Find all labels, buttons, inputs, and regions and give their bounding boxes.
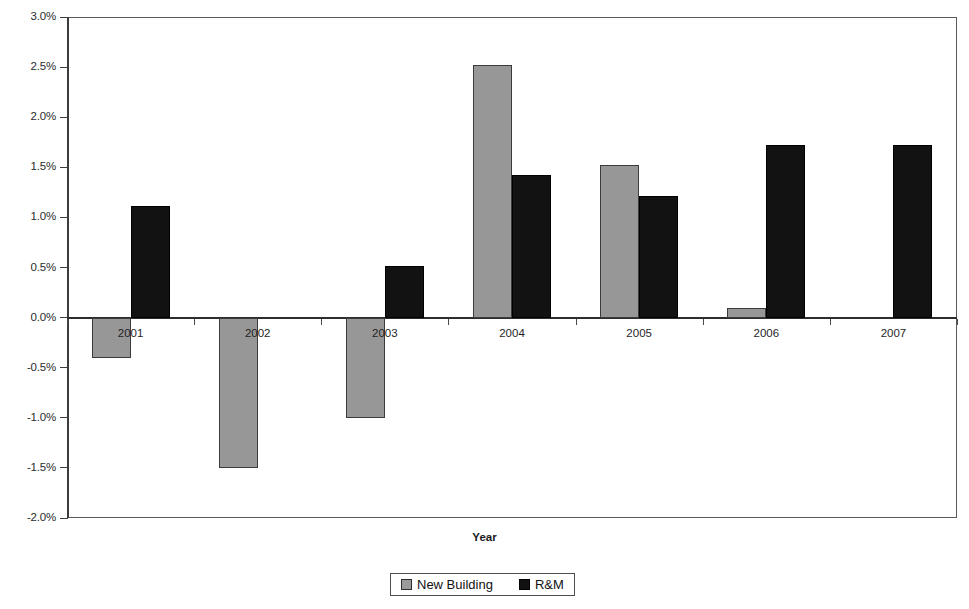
x-axis-category-label-2005: 2005 xyxy=(599,327,679,339)
x-axis-tick xyxy=(703,319,704,325)
legend-label-rm: R&M xyxy=(535,577,564,592)
y-axis-tick-label: -2.0% xyxy=(4,511,56,523)
bar-r-m-2001 xyxy=(131,206,170,317)
x-axis-tick xyxy=(957,319,958,325)
bar-r-m-2006 xyxy=(766,145,805,317)
x-axis-tick xyxy=(830,319,831,325)
legend-item-rm: R&M xyxy=(519,577,564,592)
y-axis-tick xyxy=(60,467,68,468)
y-axis-tick xyxy=(60,167,68,168)
bar-r-m-2005 xyxy=(639,196,678,317)
legend-item-new-building: New Building xyxy=(401,577,493,592)
bar-chart: 3.0%2.5%2.0%1.5%1.0%0.5%0.0%-0.5%-1.0%-1… xyxy=(0,0,969,609)
bar-new-building-2004 xyxy=(473,65,512,318)
y-axis-tick-label: -1.5% xyxy=(4,461,56,473)
y-axis-tick xyxy=(60,367,68,368)
x-axis-category-label-2004: 2004 xyxy=(472,327,552,339)
legend-label-new-building: New Building xyxy=(417,577,493,592)
y-axis-tick xyxy=(60,217,68,218)
x-axis-tick xyxy=(576,319,577,325)
legend-swatch-new-building-icon xyxy=(401,579,412,590)
bar-new-building-2006 xyxy=(727,308,766,318)
legend-swatch-rm-icon xyxy=(519,579,530,590)
y-axis-tick xyxy=(60,518,68,519)
x-axis-category-label-2002: 2002 xyxy=(218,327,298,339)
y-axis-tick-label: -0.5% xyxy=(4,361,56,373)
bar-r-m-2007 xyxy=(893,145,932,317)
x-axis-tick xyxy=(448,319,449,325)
x-axis-category-label-2003: 2003 xyxy=(345,327,425,339)
y-axis-tick-label: 1.5% xyxy=(4,160,56,172)
y-axis-tick xyxy=(60,417,68,418)
y-axis-tick-label: 3.0% xyxy=(4,10,56,22)
x-axis-category-label-2001: 2001 xyxy=(91,327,171,339)
y-axis-tick-label: -1.0% xyxy=(4,411,56,423)
x-axis-tick xyxy=(67,319,68,325)
y-axis-tick-label: 2.0% xyxy=(4,110,56,122)
bar-r-m-2003 xyxy=(385,266,424,317)
y-axis-tick-label: 0.5% xyxy=(4,261,56,273)
y-axis-tick xyxy=(60,267,68,268)
x-axis-tick xyxy=(194,319,195,325)
y-axis-tick xyxy=(60,67,68,68)
bar-r-m-2004 xyxy=(512,175,551,317)
bar-new-building-2005 xyxy=(600,165,639,317)
y-axis-tick-label: 0.0% xyxy=(4,311,56,323)
bar-new-building-2002 xyxy=(219,318,258,468)
legend: New Building R&M xyxy=(390,573,575,596)
x-axis-title: Year xyxy=(0,531,969,543)
y-axis-tick-label: 2.5% xyxy=(4,60,56,72)
y-axis-tick-label: 1.0% xyxy=(4,210,56,222)
x-axis-category-label-2006: 2006 xyxy=(726,327,806,339)
y-axis-tick xyxy=(60,17,68,18)
x-axis-category-label-2007: 2007 xyxy=(853,327,933,339)
y-axis-tick xyxy=(60,117,68,118)
x-axis-tick xyxy=(321,319,322,325)
